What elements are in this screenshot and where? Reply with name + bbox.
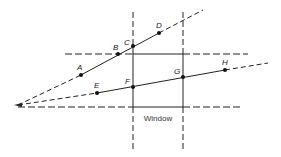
lower-ray bbox=[18, 63, 268, 105]
label-G: G bbox=[174, 67, 180, 76]
label-E: E bbox=[94, 81, 100, 90]
point-A bbox=[79, 73, 83, 77]
origin-arrowhead-icon bbox=[14, 103, 22, 107]
upper-ray-dashed-end bbox=[159, 10, 203, 33]
point-H bbox=[223, 68, 227, 72]
points bbox=[79, 31, 227, 95]
label-D: D bbox=[156, 21, 162, 30]
point-G bbox=[181, 75, 185, 79]
label-B: B bbox=[113, 43, 119, 52]
point-D bbox=[157, 31, 161, 35]
label-C: C bbox=[124, 38, 130, 47]
label-A: A bbox=[76, 63, 82, 72]
lower-ray-dashed-end bbox=[225, 63, 268, 70]
clipping-diagram: A B C D E F G H Window bbox=[0, 0, 281, 157]
window-label: Window bbox=[144, 114, 173, 123]
label-H: H bbox=[222, 58, 228, 67]
point-E bbox=[95, 91, 99, 95]
window-rect bbox=[133, 54, 183, 107]
point-F bbox=[131, 85, 135, 89]
point-B bbox=[116, 52, 120, 56]
label-F: F bbox=[125, 77, 131, 86]
point-C bbox=[131, 44, 135, 48]
lower-ray-dashed-start bbox=[18, 93, 97, 105]
lower-ray-segment-EH bbox=[97, 70, 225, 93]
diagram-canvas: A B C D E F G H Window bbox=[0, 0, 281, 157]
upper-ray-dashed-start bbox=[18, 75, 81, 105]
